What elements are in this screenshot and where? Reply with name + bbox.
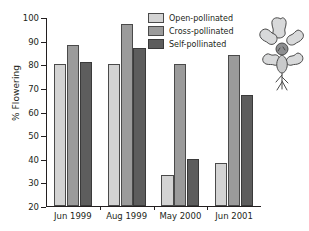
y-tick-label: 70 bbox=[28, 85, 39, 94]
legend-label-self-pollinated: Self-pollinated bbox=[169, 40, 226, 49]
y-tick-label: 40 bbox=[28, 156, 39, 165]
y-tick-label: 30 bbox=[28, 179, 39, 188]
bar-chart-figure: % Flowering 2030405060708090100 Jun 1999… bbox=[0, 0, 309, 231]
y-axis-title: % Flowering bbox=[11, 48, 21, 138]
y-tick-label: 60 bbox=[28, 108, 39, 117]
y-tick-label: 100 bbox=[23, 14, 39, 23]
bar-jun-2001-open-pollinated bbox=[215, 163, 227, 206]
x-tick bbox=[154, 206, 155, 210]
y-tick-label: 20 bbox=[28, 203, 39, 212]
bar-aug-1999-self-pollinated bbox=[133, 48, 145, 206]
legend-swatch-self-pollinated bbox=[148, 39, 164, 49]
y-tick bbox=[41, 207, 46, 208]
y-tick-label: 50 bbox=[28, 132, 39, 141]
bar-jun-2001-cross-pollinated bbox=[228, 55, 240, 206]
y-tick bbox=[41, 136, 46, 137]
y-tick bbox=[41, 113, 46, 114]
y-tick-label: 90 bbox=[28, 37, 39, 46]
x-category-label-jun-2001: Jun 2001 bbox=[215, 211, 253, 221]
y-tick bbox=[41, 18, 46, 19]
bar-may-2000-self-pollinated bbox=[187, 159, 199, 206]
y-tick bbox=[41, 89, 46, 90]
y-tick bbox=[41, 42, 46, 43]
bar-may-2000-cross-pollinated bbox=[174, 64, 186, 206]
legend-swatch-open-pollinated bbox=[148, 13, 164, 23]
bar-jun-1999-self-pollinated bbox=[80, 62, 92, 206]
bar-jun-1999-open-pollinated bbox=[54, 64, 66, 206]
legend-item-cross-pollinated: Cross-pollinated bbox=[148, 26, 234, 36]
flower-illustration-icon bbox=[254, 12, 309, 92]
x-category-label-may-2000: May 2000 bbox=[159, 211, 201, 221]
bar-aug-1999-open-pollinated bbox=[108, 64, 120, 206]
bar-may-2000-open-pollinated bbox=[161, 175, 173, 206]
x-tick bbox=[100, 206, 101, 210]
x-tick bbox=[207, 206, 208, 210]
x-category-label-aug-1999: Aug 1999 bbox=[106, 211, 147, 221]
bar-aug-1999-cross-pollinated bbox=[121, 24, 133, 206]
bar-jun-2001-self-pollinated bbox=[241, 95, 253, 206]
legend-item-open-pollinated: Open-pollinated bbox=[148, 13, 234, 23]
y-tick bbox=[41, 183, 46, 184]
y-axis-line bbox=[46, 18, 47, 207]
y-tick bbox=[41, 160, 46, 161]
legend-label-open-pollinated: Open-pollinated bbox=[169, 14, 233, 23]
legend-swatch-cross-pollinated bbox=[148, 26, 164, 36]
legend-item-self-pollinated: Self-pollinated bbox=[148, 39, 234, 49]
x-category-label-jun-1999: Jun 1999 bbox=[54, 211, 92, 221]
chart-legend: Open-pollinated Cross-pollinated Self-po… bbox=[148, 13, 234, 49]
y-tick-label: 80 bbox=[28, 61, 39, 70]
bar-jun-1999-cross-pollinated bbox=[67, 45, 79, 206]
y-tick bbox=[41, 65, 46, 66]
legend-label-cross-pollinated: Cross-pollinated bbox=[169, 27, 234, 36]
